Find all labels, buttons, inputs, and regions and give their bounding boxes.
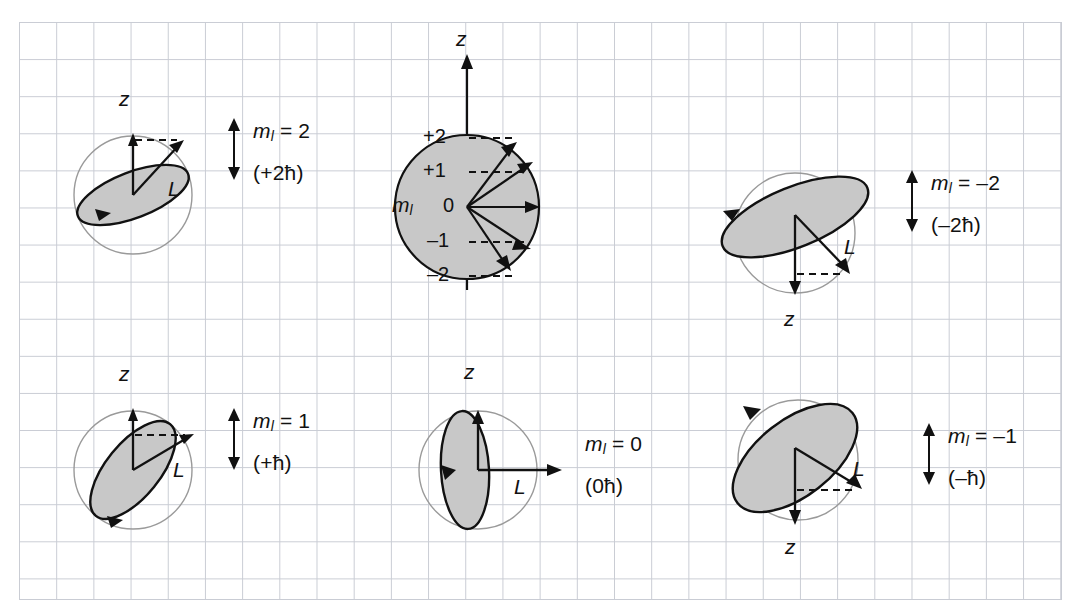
ml-range-double-arrow	[901, 170, 923, 232]
ml-subscript: l	[949, 180, 952, 196]
panel-ml-vector-diagram: z +2 +1 0 –1 –2 ml	[400, 40, 590, 320]
ml-subscript: l	[271, 128, 274, 144]
panel-ml-zero: z L ml = 0 (0ħ)	[400, 370, 650, 580]
L-vector-label: L	[853, 457, 865, 481]
L-vector-label: L	[173, 458, 185, 482]
ml-value: = –2	[958, 171, 1000, 194]
L-vector-label: L	[844, 235, 856, 259]
hbar-value: (+2ħ)	[253, 161, 304, 185]
ml-symbol: m	[585, 432, 603, 455]
z-axis-label: z	[456, 27, 467, 51]
hbar-value: (+ħ)	[253, 451, 292, 475]
hbar-value: (–2ħ)	[931, 213, 981, 237]
hbar-value: (–ħ)	[948, 466, 986, 490]
tick-label-minus-1: –1	[427, 229, 449, 252]
z-axis-label: z	[464, 360, 475, 384]
ml-label: ml = 1	[253, 409, 310, 434]
L-vector-arrowhead	[547, 464, 562, 476]
ml-symbol: m	[253, 119, 271, 142]
L-vector-label: L	[514, 475, 526, 499]
ml-label: ml = 2	[253, 119, 310, 144]
ml-value: = 2	[280, 119, 310, 142]
ml-symbol: m	[253, 409, 271, 432]
tick-label-plus-1: +1	[423, 159, 446, 182]
ml-symbol: m	[392, 193, 410, 216]
ml-subscript: l	[603, 441, 606, 457]
tick-label-zero: 0	[443, 194, 454, 217]
L-vector-label: L	[168, 177, 180, 201]
z-axis-label: z	[784, 307, 795, 331]
angular-momentum-quantization-figure: z L ml = 2 (+2ħ) z L	[0, 0, 1081, 616]
hbar-value: (0ħ)	[585, 474, 623, 498]
z-axis-label: z	[119, 362, 130, 386]
ml-range-double-arrow	[918, 423, 940, 485]
panel-ml-minus-1: z L ml = –1 (–ħ)	[705, 365, 955, 580]
ml-symbol: m	[931, 171, 949, 194]
z-axis-label: z	[785, 535, 796, 559]
z-axis-arrowhead	[461, 54, 473, 69]
L-vector-arrowhead	[169, 140, 184, 153]
ml-axis-label: ml	[392, 193, 413, 218]
ml-label: ml = 0	[585, 432, 642, 457]
ml-value: = 0	[612, 432, 642, 455]
ml-subscript: l	[410, 202, 413, 218]
ml-value: = –1	[975, 424, 1017, 447]
ml-subscript: l	[271, 418, 274, 434]
z-axis-label: z	[119, 87, 130, 111]
ml-range-double-arrow	[223, 118, 245, 180]
z-axis-arrowhead	[128, 408, 138, 421]
z-axis-arrowhead	[789, 510, 801, 525]
panel-ml-minus-2: z L ml = –2 (–2ħ)	[705, 135, 955, 350]
ml-value: = 1	[280, 409, 310, 432]
ml-subscript: l	[966, 433, 969, 449]
tick-label-minus-2: –2	[427, 263, 449, 286]
ml-label: ml = –2	[931, 171, 1000, 196]
ml-label: ml = –1	[948, 424, 1017, 449]
orbit-direction-arrowhead	[743, 406, 761, 420]
ml-symbol: m	[948, 424, 966, 447]
ml-range-double-arrow	[223, 408, 245, 470]
panel-ml-plus-1: z L ml = 1 (+ħ)	[55, 370, 285, 570]
panel-ml-plus-2: z L ml = 2 (+2ħ)	[55, 95, 285, 295]
tick-label-plus-2: +2	[423, 125, 446, 148]
